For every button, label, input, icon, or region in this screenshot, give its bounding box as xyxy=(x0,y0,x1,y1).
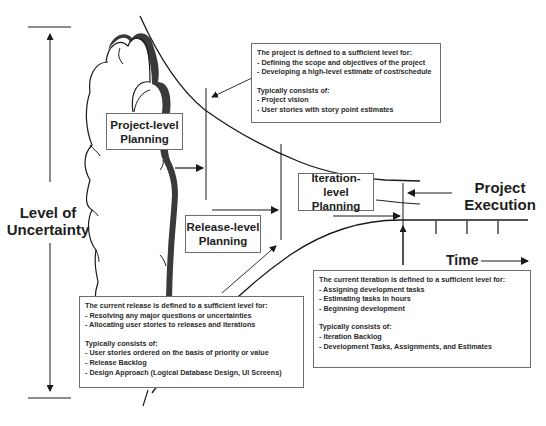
iteration-converge-line xyxy=(376,200,420,204)
iteration-note-consists-item: - Iteration Backlog xyxy=(319,332,525,342)
project-note-consists-item: - User stories with story point estimate… xyxy=(257,105,435,115)
iteration-note-bullet: - Estimating tasks in hours xyxy=(319,294,525,304)
project-note-bullet: - Defining the scope and objectives of t… xyxy=(257,58,435,68)
project-planning-line1: Project-level xyxy=(110,118,178,132)
project-planning-line2: Planning xyxy=(120,132,169,146)
project-note-consists-item: - Project vision xyxy=(257,95,435,105)
release-note-pointer xyxy=(222,246,276,293)
iteration-planning-line1: Iteration-level xyxy=(299,171,373,199)
release-note-consists-item: - User stories ordered on the basis of p… xyxy=(85,348,298,358)
release-note-consists-item: - Design Approach (Logical Database Desi… xyxy=(85,368,298,378)
release-planning-line2: Planning xyxy=(199,234,248,248)
release-note-bullet: - Allocating user stories to releases an… xyxy=(85,320,298,330)
project-execution-label: Project Execution xyxy=(458,179,542,213)
uncertainty-label-line1: Level of xyxy=(20,204,77,221)
iteration-note-bullet: - Assigning development tasks xyxy=(319,285,525,295)
uncertainty-label-line2: Uncertainty xyxy=(7,221,90,238)
project-note: The project is defined to a sufficient l… xyxy=(251,43,441,123)
time-label-text: Time xyxy=(446,252,478,268)
release-planning-line1: Release-level xyxy=(187,220,260,234)
time-ticks xyxy=(436,221,498,234)
project-note-consists-heading: Typically consists of: xyxy=(257,86,435,96)
release-level-planning-box: Release-level Planning xyxy=(185,215,261,253)
uncertainty-axis-label: Level of Uncertainty xyxy=(2,204,94,238)
project-level-planning-box: Project-level Planning xyxy=(106,113,183,150)
project-note-pointer xyxy=(212,78,252,97)
release-note-consists-item: - Release Backlog xyxy=(85,358,298,368)
release-note: The current release is defined to a suff… xyxy=(79,296,304,388)
release-note-heading: The current release is defined to a suff… xyxy=(85,301,298,311)
iteration-level-planning-box: Iteration-level Planning xyxy=(298,173,374,211)
project-note-bullet: - Developing a high-level estimate of co… xyxy=(257,67,435,77)
iteration-planning-line2: Planning xyxy=(312,199,361,213)
iteration-note-consists-heading: Typically consists of: xyxy=(319,322,525,332)
iteration-note: The current iteration is defined to a su… xyxy=(313,270,531,368)
release-note-bullet: - Resolving any major questions or uncer… xyxy=(85,311,298,321)
iteration-note-consists-item: - Development Tasks, Assignments, and Es… xyxy=(319,342,525,352)
execution-line2: Execution xyxy=(464,196,536,213)
iteration-note-heading: The current iteration is defined to a su… xyxy=(319,275,525,285)
release-note-consists-heading: Typically consists of: xyxy=(85,339,298,349)
time-axis-label: Time xyxy=(446,252,478,268)
execution-line1: Project xyxy=(475,179,526,196)
iteration-note-bullet: - Beginning development xyxy=(319,304,525,314)
project-note-heading: The project is defined to a sufficient l… xyxy=(257,48,435,58)
